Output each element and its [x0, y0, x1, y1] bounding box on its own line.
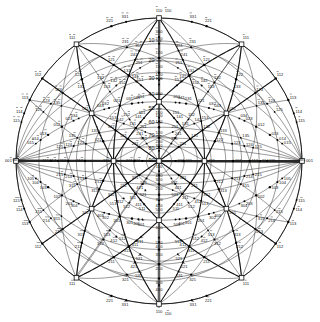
pole-marker[interactable]: [61, 105, 63, 107]
pole-marker[interactable]: [190, 274, 192, 276]
pole-marker[interactable]: [144, 189, 146, 191]
pole-marker[interactable]: [138, 146, 140, 148]
pole-marker[interactable]: [139, 50, 141, 52]
pole-marker[interactable]: [140, 199, 142, 201]
pole-marker[interactable]: [41, 242, 43, 244]
pole-marker[interactable]: [143, 117, 145, 119]
pole-marker[interactable]: [276, 139, 278, 141]
pole-marker[interactable]: [84, 160, 86, 162]
pole-marker[interactable]: [193, 123, 195, 125]
pole-marker[interactable]: [81, 78, 83, 80]
pole-marker[interactable]: [23, 112, 25, 114]
pole-marker-major[interactable]: [224, 206, 229, 211]
pole-marker[interactable]: [176, 84, 178, 86]
pole-marker[interactable]: [109, 91, 111, 93]
pole-marker[interactable]: [115, 85, 117, 87]
pole-marker[interactable]: [124, 87, 126, 89]
pole-marker-major[interactable]: [157, 99, 162, 104]
pole-marker[interactable]: [158, 150, 160, 152]
pole-marker[interactable]: [78, 117, 80, 119]
pole-marker[interactable]: [191, 21, 193, 23]
pole-marker[interactable]: [143, 203, 145, 205]
pole-marker[interactable]: [243, 145, 245, 147]
pole-marker[interactable]: [57, 160, 59, 162]
pole-marker[interactable]: [85, 177, 87, 179]
pole-marker[interactable]: [35, 143, 37, 145]
pole-marker[interactable]: [98, 188, 100, 190]
pole-marker[interactable]: [158, 126, 160, 128]
pole-marker[interactable]: [172, 189, 174, 191]
pole-marker[interactable]: [243, 175, 245, 177]
pole-marker[interactable]: [177, 67, 179, 69]
pole-marker-major[interactable]: [157, 16, 162, 21]
pole-marker[interactable]: [175, 219, 177, 221]
pole-marker[interactable]: [62, 228, 64, 230]
pole-marker-major[interactable]: [157, 218, 162, 223]
pole-marker[interactable]: [84, 90, 86, 92]
pole-marker[interactable]: [235, 78, 237, 80]
pole-marker[interactable]: [43, 111, 45, 113]
pole-marker[interactable]: [114, 191, 116, 193]
pole-marker[interactable]: [203, 64, 205, 66]
pole-marker[interactable]: [131, 102, 133, 104]
pole-marker[interactable]: [178, 146, 180, 148]
pole-marker[interactable]: [213, 108, 215, 110]
pole-marker[interactable]: [296, 121, 298, 123]
pole-marker[interactable]: [275, 77, 277, 79]
pole-marker[interactable]: [123, 123, 125, 125]
pole-marker[interactable]: [158, 183, 160, 185]
pole-marker[interactable]: [172, 131, 174, 133]
pole-marker[interactable]: [208, 107, 210, 109]
pole-marker[interactable]: [170, 143, 172, 145]
pole-marker[interactable]: [177, 253, 179, 255]
pole-marker[interactable]: [72, 200, 74, 202]
pole-marker[interactable]: [102, 81, 104, 83]
pole-marker-major[interactable]: [239, 275, 244, 280]
pole-marker[interactable]: [103, 108, 105, 110]
pole-marker[interactable]: [61, 194, 63, 196]
pole-marker[interactable]: [124, 233, 126, 235]
pole-marker[interactable]: [158, 263, 160, 265]
pole-marker[interactable]: [158, 277, 160, 279]
pole-marker[interactable]: [110, 295, 112, 297]
pole-marker[interactable]: [76, 137, 78, 139]
pole-marker[interactable]: [28, 221, 30, 223]
pole-marker[interactable]: [50, 103, 52, 105]
pole-marker[interactable]: [72, 120, 74, 122]
pole-marker[interactable]: [137, 218, 139, 220]
pole-marker[interactable]: [114, 129, 116, 131]
pole-marker[interactable]: [125, 299, 127, 301]
pole-marker[interactable]: [20, 121, 22, 123]
pole-marker[interactable]: [140, 236, 142, 238]
pole-marker-major[interactable]: [89, 206, 94, 211]
pole-marker[interactable]: [158, 170, 160, 172]
pole-marker[interactable]: [119, 104, 121, 106]
pole-marker[interactable]: [232, 160, 234, 162]
pole-marker[interactable]: [281, 143, 283, 145]
pole-marker[interactable]: [139, 67, 141, 69]
pole-marker[interactable]: [40, 181, 42, 183]
pole-marker[interactable]: [158, 84, 160, 86]
pole-marker[interactable]: [20, 199, 22, 201]
pole-marker[interactable]: [127, 138, 129, 140]
pole-marker[interactable]: [173, 203, 175, 205]
pole-marker[interactable]: [181, 127, 183, 129]
pole-marker[interactable]: [259, 160, 261, 162]
pole-marker[interactable]: [254, 92, 256, 94]
pole-marker[interactable]: [113, 64, 115, 66]
pole-marker[interactable]: [108, 107, 110, 109]
pole-marker[interactable]: [135, 127, 137, 129]
pole-marker[interactable]: [296, 199, 298, 201]
pole-marker-major[interactable]: [111, 159, 116, 164]
pole-marker[interactable]: [188, 245, 190, 247]
pole-marker[interactable]: [140, 121, 142, 123]
pole-marker[interactable]: [134, 261, 136, 263]
pole-marker[interactable]: [191, 299, 193, 301]
pole-marker[interactable]: [125, 21, 127, 23]
pole-marker[interactable]: [126, 46, 128, 48]
pole-marker[interactable]: [47, 186, 49, 188]
pole-marker[interactable]: [158, 57, 160, 59]
pole-marker[interactable]: [85, 143, 87, 145]
pole-marker-major[interactable]: [157, 302, 162, 307]
pole-marker[interactable]: [158, 237, 160, 239]
